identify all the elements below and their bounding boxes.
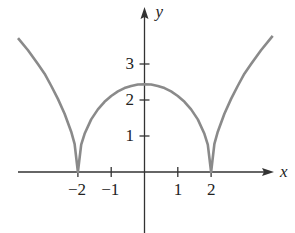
function-curve: [18, 36, 273, 172]
function-graph: [0, 0, 295, 233]
x-tick-label: −1: [101, 181, 119, 198]
x-tick-label: −2: [68, 181, 86, 198]
y-tick-label: 1: [126, 127, 135, 144]
y-axis-label: y: [156, 3, 164, 20]
axes: [18, 7, 274, 233]
y-tick-label: 3: [126, 55, 135, 72]
x-axis-label: x: [280, 163, 288, 180]
y-tick-label: 2: [126, 91, 135, 108]
x-tick-label: 2: [207, 181, 216, 198]
x-tick-label: 1: [174, 181, 183, 198]
